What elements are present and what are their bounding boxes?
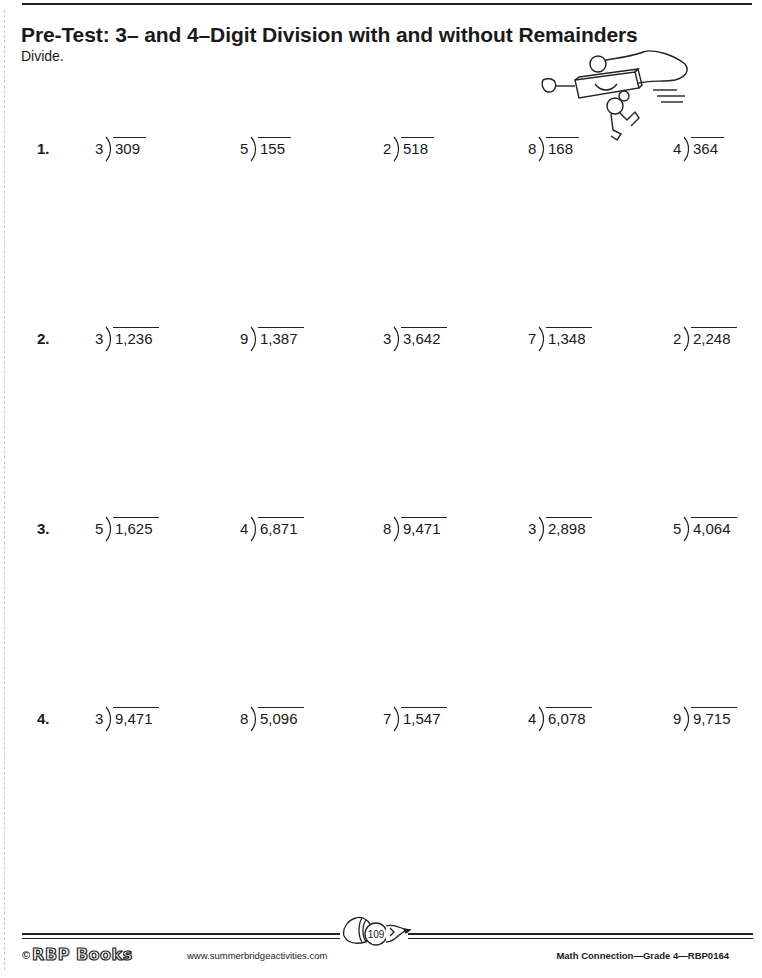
division-bracket-icon	[250, 516, 258, 542]
division-bracket-icon	[683, 516, 691, 542]
dividend: 9,471	[401, 517, 447, 537]
dividend: 6,078	[546, 707, 592, 727]
row-number: 1.	[37, 140, 50, 157]
dividend: 3,642	[401, 327, 447, 347]
dividend: 1,387	[258, 327, 304, 347]
dividend: 1,625	[113, 517, 159, 537]
division-bracket-icon	[393, 706, 401, 732]
row-number: 4.	[37, 710, 50, 727]
top-rule	[22, 3, 752, 5]
divisor: 2	[383, 140, 391, 157]
page-title: Pre-Test: 3– and 4–Digit Division with a…	[21, 23, 638, 47]
division-bracket-icon	[538, 516, 546, 542]
dividend: 9,471	[113, 707, 159, 727]
division-bracket-icon	[393, 136, 401, 162]
divisor: 9	[240, 330, 248, 347]
divisor: 5	[240, 140, 248, 157]
divisor: 5	[95, 520, 103, 537]
division-bracket-icon	[683, 136, 691, 162]
divisor: 9	[673, 710, 681, 727]
division-bracket-icon	[250, 136, 258, 162]
problem-row-1: 1. 3 309 5 155 2 518 8 168 4 364	[0, 140, 762, 170]
problem-row-2: 2. 3 1,236 9 1,387 3 3,642 7 1,348 2 2,2…	[0, 330, 762, 360]
dividend: 6,871	[258, 517, 304, 537]
flying-ruler-superhero-icon	[535, 50, 695, 150]
brand-name: RBP Books	[32, 945, 133, 964]
division-bracket-icon	[683, 706, 691, 732]
divisor: 8	[383, 520, 391, 537]
divisor: 7	[383, 710, 391, 727]
dividend: 4,064	[691, 517, 737, 537]
instructions: Divide.	[21, 48, 64, 64]
dividend: 1,236	[113, 327, 159, 347]
divisor: 2	[673, 330, 681, 347]
divisor: 3	[95, 330, 103, 347]
dividend: 155	[258, 137, 291, 157]
division-bracket-icon	[105, 136, 113, 162]
dividend: 5,096	[258, 707, 304, 727]
footer-rule-right	[408, 933, 753, 935]
dividend: 2,898	[546, 517, 592, 537]
divisor: 3	[528, 520, 536, 537]
footer-rule-left	[22, 933, 340, 935]
problem-row-3: 3. 5 1,625 4 6,871 8 9,471 3 2,898 5 4,0…	[0, 520, 762, 550]
page-number: 109	[365, 929, 387, 940]
divisor: 3	[95, 710, 103, 727]
division-bracket-icon	[105, 706, 113, 732]
divisor: 3	[95, 140, 103, 157]
divisor: 5	[673, 520, 681, 537]
website-link[interactable]: www.summerbridgeactivities.com	[187, 950, 327, 961]
dividend: 309	[113, 137, 146, 157]
footer-rule-left-thin	[22, 938, 340, 939]
division-bracket-icon	[393, 326, 401, 352]
division-bracket-icon	[538, 136, 546, 162]
dividend: 518	[401, 137, 434, 157]
division-bracket-icon	[250, 326, 258, 352]
division-bracket-icon	[105, 326, 113, 352]
publisher-logo: © RBP Books	[22, 945, 133, 964]
dividend: 9,715	[691, 707, 737, 727]
copyright-symbol: ©	[22, 949, 30, 961]
dividend: 168	[546, 137, 579, 157]
divisor: 7	[528, 330, 536, 347]
divisor: 3	[383, 330, 391, 347]
division-bracket-icon	[538, 706, 546, 732]
dividend: 1,547	[401, 707, 447, 727]
dividend: 2,248	[691, 327, 737, 347]
division-bracket-icon	[683, 326, 691, 352]
division-bracket-icon	[393, 516, 401, 542]
divisor: 4	[240, 520, 248, 537]
division-bracket-icon	[250, 706, 258, 732]
divisor: 8	[240, 710, 248, 727]
division-bracket-icon	[538, 326, 546, 352]
divisor: 8	[528, 140, 536, 157]
row-number: 3.	[37, 520, 50, 537]
dividend: 364	[691, 137, 724, 157]
divisor: 4	[673, 140, 681, 157]
book-info: Math Connection—Grade 4—RBP0164	[556, 950, 729, 961]
problem-row-4: 4. 3 9,471 8 5,096 7 1,547 4 6,078 9 9,7…	[0, 710, 762, 740]
division-bracket-icon	[105, 516, 113, 542]
divisor: 4	[528, 710, 536, 727]
footer-rule-right-thin	[408, 938, 753, 939]
row-number: 2.	[37, 330, 50, 347]
dividend: 1,348	[546, 327, 592, 347]
